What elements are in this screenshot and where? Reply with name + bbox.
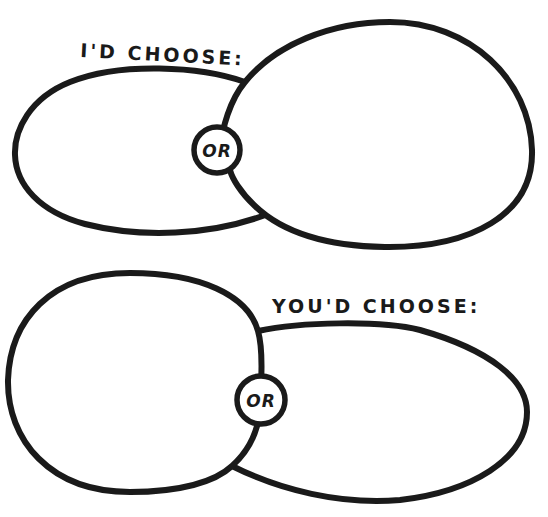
top-label: I'D CHOOSE: bbox=[80, 39, 246, 70]
top-or-connector: OR bbox=[194, 127, 240, 173]
top-right-option-bubble[interactable] bbox=[220, 22, 532, 247]
or-label: OR bbox=[246, 391, 276, 411]
bottom-panel: YOU'D CHOOSE: OR bbox=[8, 273, 527, 501]
bottom-or-connector: OR bbox=[237, 376, 285, 424]
bottom-label: YOU'D CHOOSE: bbox=[271, 295, 480, 317]
or-label: OR bbox=[202, 141, 232, 161]
top-panel: I'D CHOOSE: OR bbox=[15, 22, 532, 247]
bottom-left-option-bubble[interactable] bbox=[8, 273, 262, 492]
choice-diagram: I'D CHOOSE: OR YOU'D CHOOSE: OR bbox=[0, 0, 548, 517]
